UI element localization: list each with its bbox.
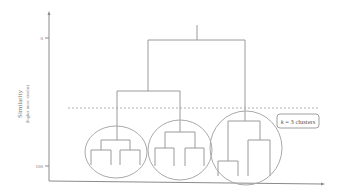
y-axis-sublabel: (higher more similar) bbox=[25, 84, 30, 123]
y-axis-label: Similarity bbox=[16, 90, 24, 119]
dendrogram-tree bbox=[91, 25, 270, 176]
cluster-1-ring bbox=[85, 126, 147, 178]
k-clusters-label: k = 3 clusters bbox=[281, 118, 316, 125]
y-tick-0: 0 bbox=[41, 36, 44, 41]
y-tick-100: 100 bbox=[36, 164, 44, 169]
y-axis-arrow-icon bbox=[48, 11, 51, 15]
dendrogram-figure: 0 100 Similarity (higher more similar) bbox=[0, 0, 342, 192]
cluster-3-ring bbox=[210, 111, 282, 185]
x-axis bbox=[49, 181, 325, 186]
y-axis-label-group: Similarity (higher more similar) bbox=[16, 84, 30, 123]
k-clusters-annotation: k = 3 clusters bbox=[277, 114, 319, 128]
y-axis: 0 100 bbox=[36, 11, 51, 181]
x-axis-arrow-icon bbox=[321, 183, 325, 186]
